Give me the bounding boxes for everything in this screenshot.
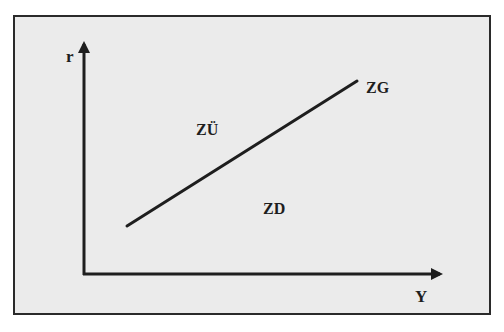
diagram-canvas: r Y ZG ZÜ ZD — [0, 0, 504, 332]
vertical-axis-label: r — [66, 47, 74, 66]
zg-label: ZG — [366, 79, 390, 96]
region-above-label: ZÜ — [196, 121, 219, 138]
zg-line — [127, 81, 357, 226]
region-below-label: ZD — [263, 200, 285, 217]
horizontal-axis-label: Y — [415, 287, 427, 306]
